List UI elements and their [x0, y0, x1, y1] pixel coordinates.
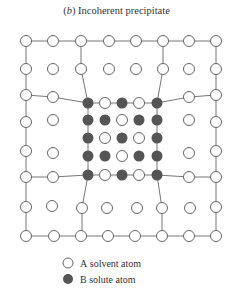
solvent-atom: [134, 98, 145, 109]
open-circle-icon: [62, 257, 74, 269]
solute-atom: [83, 98, 94, 109]
precipitate: [83, 98, 163, 181]
solute-atom: [117, 133, 128, 144]
legend-item-solute: B solute atom: [62, 271, 141, 287]
solute-atom: [83, 170, 94, 181]
solvent-atom: [117, 151, 128, 162]
solute-atom: [152, 151, 163, 162]
solvent-atom: [100, 98, 111, 109]
solute-atom: [117, 98, 128, 109]
lattice-diagram: [0, 0, 233, 250]
solute-atom: [134, 151, 145, 162]
solute-atom: [134, 115, 145, 126]
solvent-atom: [100, 170, 111, 181]
solute-atom: [83, 151, 94, 162]
legend-letter: B: [80, 274, 87, 285]
solvent-atom: [100, 133, 111, 144]
solvent-atom: [134, 170, 145, 181]
legend-item-solvent: A solvent atom: [62, 255, 141, 271]
solute-atom: [152, 115, 163, 126]
legend-text: solvent atom: [90, 258, 141, 269]
solute-atom: [100, 115, 111, 126]
solvent-atom: [134, 133, 145, 144]
solute-atom: [100, 151, 111, 162]
solute-atom: [83, 133, 94, 144]
solute-atom: [152, 98, 163, 109]
filled-circle-icon: [62, 273, 74, 285]
legend: A solvent atom B solute atom: [62, 255, 141, 287]
solvent-atom: [117, 115, 128, 126]
legend-letter: A: [80, 258, 87, 269]
legend-text: solute atom: [89, 274, 135, 285]
solute-atom: [83, 115, 94, 126]
solute-atom: [152, 133, 163, 144]
solute-atom: [117, 170, 128, 181]
solute-atom: [152, 170, 163, 181]
